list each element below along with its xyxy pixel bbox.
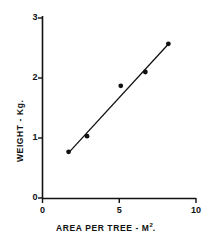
x-tick-label: 0: [33, 206, 53, 215]
data-point: [85, 134, 90, 139]
scatter-plot-figure: 0123 0510 WEIGHT - Kg. AREA PER TREE - M…: [0, 0, 213, 239]
y-tick-label: 2: [29, 73, 38, 82]
x-tick-label: 5: [109, 206, 129, 215]
y-tick-label: 0: [29, 193, 38, 202]
data-point: [143, 70, 148, 75]
x-axis-title-text: AREA PER TREE - M: [56, 223, 149, 233]
x-axis-title: AREA PER TREE - M2.: [56, 222, 156, 233]
data-point: [166, 41, 171, 46]
plot-background: [0, 0, 213, 239]
x-tick-label: 10: [186, 206, 206, 215]
y-tick-label: 3: [29, 13, 38, 22]
data-point: [118, 83, 123, 88]
x-axis-title-suffix: .: [153, 223, 156, 233]
data-point: [66, 149, 71, 154]
y-tick-label: 1: [29, 133, 38, 142]
plot-canvas: [0, 0, 213, 239]
y-axis-title: WEIGHT - Kg.: [15, 100, 25, 162]
